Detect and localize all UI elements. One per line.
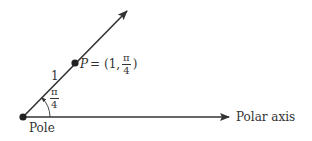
pole-label: Pole [29,122,55,134]
point-angle-denominator: 4 [123,65,129,76]
point-close: ) [133,58,138,70]
pole-point [19,113,26,120]
point-equals: = (1, [90,58,120,70]
angle-numerator: π [50,87,59,99]
angle-denominator: 4 [51,99,57,110]
point-p-label: P = (1, π 4 ) [80,53,137,76]
angle-arc [42,98,50,117]
point-name: P [80,58,88,70]
polar-axis-label: Polar axis [236,111,295,123]
point-angle-numerator: π [122,53,131,65]
point-p [71,59,78,66]
angle-label: π 4 [50,87,59,110]
radius-label: 1 [51,70,59,82]
